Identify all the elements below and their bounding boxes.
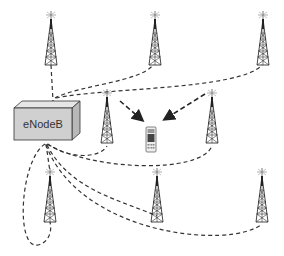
tower-icon [101, 89, 113, 143]
tower-icon [151, 168, 163, 222]
link-t3 [56, 65, 262, 98]
enodeb-box: eNodeB [14, 101, 80, 140]
link-t1 [51, 65, 53, 101]
tower-icon [256, 168, 268, 222]
enodeb-label: eNodeB [23, 118, 63, 130]
links [23, 65, 262, 245]
tower-icon [44, 168, 56, 222]
tower-icon [149, 11, 161, 65]
mobile-phone-icon [146, 127, 156, 152]
link-t4 [48, 144, 107, 156]
tower-icon [257, 11, 269, 65]
network-diagram: eNodeB [0, 0, 284, 256]
tower-icon [206, 89, 218, 143]
arrow-t5-to-phone [165, 94, 205, 119]
link-t7 [47, 145, 157, 216]
tower-icon [45, 11, 57, 65]
radio-links [120, 94, 205, 120]
link-loop [23, 144, 50, 245]
arrow-t4-to-phone [120, 101, 142, 120]
link-t5 [47, 144, 212, 166]
